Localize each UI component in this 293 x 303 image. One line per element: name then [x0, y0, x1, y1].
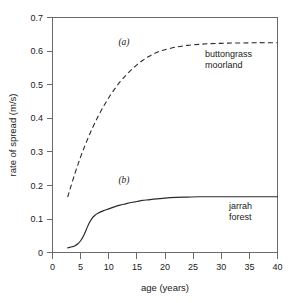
y-tick-label-2: 0.2 — [30, 181, 43, 191]
series-label-a-line2: moorland — [205, 60, 243, 70]
x-tick-label-1: 5 — [78, 262, 83, 272]
rate-of-spread-line-chart: 0 0.1 0.2 0.3 0.4 0.5 0.6 0.7 0 5 10 15 — [0, 0, 293, 303]
y-axis-title: rate of spread (m/s) — [7, 94, 18, 177]
x-tick-label-3: 15 — [132, 262, 142, 272]
series-label-b-line2: forest — [229, 212, 252, 222]
y-tick-label-4: 0.4 — [30, 113, 43, 123]
series-label-jarrah-forest: jarrah forest — [228, 201, 252, 222]
y-tick-label-6: 0.6 — [30, 46, 43, 56]
x-tick-label-7: 35 — [244, 262, 254, 272]
y-tick-label-0: 0 — [38, 248, 43, 258]
x-tick-label-8: 40 — [272, 262, 282, 272]
y-tick-label-3: 0.3 — [30, 147, 43, 157]
x-axis-title: age (years) — [141, 282, 189, 293]
x-tick-label-4: 20 — [160, 262, 170, 272]
curve-tag-a: (a) — [118, 37, 129, 48]
x-tick-label-6: 30 — [216, 262, 226, 272]
y-tick-label-7: 0.7 — [30, 13, 43, 23]
series-label-a-line1: buttongrass — [205, 49, 253, 59]
series-label-b-line1: jarrah — [228, 201, 252, 211]
x-tick-label-2: 10 — [104, 262, 114, 272]
x-tick-label-0: 0 — [50, 262, 55, 272]
y-tick-label-1: 0.1 — [30, 214, 43, 224]
x-tick-label-5: 25 — [188, 262, 198, 272]
chart-figure: 0 0.1 0.2 0.3 0.4 0.5 0.6 0.7 0 5 10 15 — [0, 0, 293, 303]
curve-tag-b: (b) — [118, 175, 129, 186]
y-tick-label-5: 0.5 — [30, 80, 43, 90]
